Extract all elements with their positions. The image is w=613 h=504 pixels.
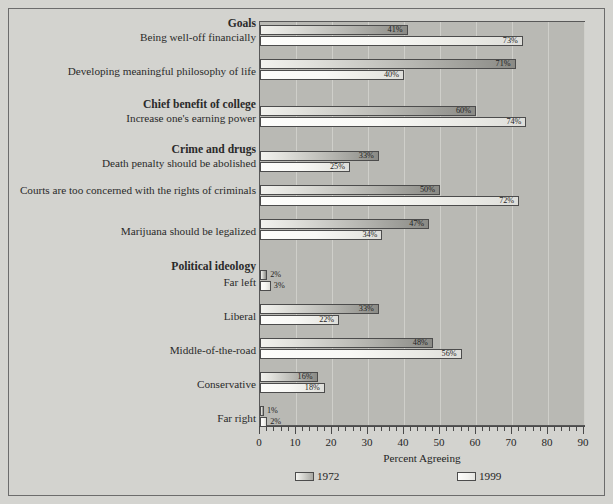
value-label-conservative-1999: 18% — [260, 383, 320, 393]
axis-tick-minor — [518, 427, 519, 431]
axis-tick-minor — [345, 427, 346, 431]
legend: 19721999 — [259, 470, 585, 486]
value-label-far-right-1972: 1% — [267, 406, 278, 416]
value-label-increase-earning-power-1999: 74% — [260, 117, 521, 127]
x-tick-label: 0 — [256, 436, 262, 448]
value-label-middle-of-the-road-1972: 48% — [260, 338, 428, 348]
axis-tick-minor — [576, 427, 577, 431]
x-tick-label: 90 — [578, 436, 589, 448]
axis-tick-minor — [525, 427, 526, 431]
bar-far-left-1972 — [260, 270, 267, 280]
category-label: Conservative — [197, 378, 256, 391]
gridline — [548, 22, 549, 425]
value-label-developing-philosophy-of-life-1999: 40% — [260, 70, 399, 80]
value-label-middle-of-the-road-1999: 56% — [260, 349, 457, 359]
category-label: Increase one's earning power — [126, 112, 256, 125]
plot-area: 41%73%71%40%60%74%33%25%50%72%47%34%2%3%… — [259, 21, 585, 426]
axis-tick-minor — [561, 427, 562, 431]
category-label: Far right — [217, 412, 256, 425]
axis-tick-minor — [381, 427, 382, 431]
axis-tick-minor — [410, 427, 411, 431]
category-label: Being well-off financially — [140, 31, 256, 44]
value-label-marijuana-legalized-1999: 34% — [260, 230, 377, 240]
category-label: Courts are too concerned with the rights… — [10, 184, 256, 197]
axis-tick-minor — [504, 427, 505, 431]
axis-tick-major — [439, 427, 440, 434]
category-labels: GoalsBeing well-off financiallyDevelopin… — [10, 18, 258, 428]
section-header: Chief benefit of college — [143, 99, 256, 112]
category-label: Death penalty should be abolished — [102, 157, 256, 170]
x-tick-label: 60 — [470, 436, 481, 448]
axis-tick-major — [331, 427, 332, 434]
axis-tick-minor — [533, 427, 534, 431]
axis-tick-minor — [540, 427, 541, 431]
bar-far-right-1972 — [260, 406, 264, 416]
value-label-death-penalty-abolished-1972: 33% — [260, 151, 374, 161]
chart-page: GoalsBeing well-off financiallyDevelopin… — [0, 0, 613, 504]
value-label-liberal-1999: 22% — [260, 315, 334, 325]
axis-tick-minor — [374, 427, 375, 431]
axis-tick-minor — [432, 427, 433, 431]
x-axis-tick-labels: 0102030405060708090 — [259, 436, 585, 450]
axis-tick-major — [547, 427, 548, 434]
axis-tick-minor — [360, 427, 361, 431]
axis-tick-major — [583, 427, 584, 434]
x-tick-label: 10 — [290, 436, 301, 448]
bar-far-left-1999 — [260, 281, 271, 291]
axis-tick-minor — [489, 427, 490, 431]
value-label-being-well-off-financially-1972: 41% — [260, 25, 403, 35]
axis-tick-major — [475, 427, 476, 434]
axis-tick-major — [403, 427, 404, 434]
axis-tick-major — [367, 427, 368, 434]
category-label: Developing meaningful philosophy of life — [68, 65, 256, 78]
value-label-developing-philosophy-of-life-1972: 71% — [260, 59, 511, 69]
gridline — [440, 22, 441, 425]
value-label-being-well-off-financially-1999: 73% — [260, 36, 518, 46]
x-tick-label: 40 — [398, 436, 409, 448]
axis-tick-minor — [482, 427, 483, 431]
value-label-increase-earning-power-1972: 60% — [260, 106, 471, 116]
axis-tick-minor — [425, 427, 426, 431]
axis-tick-minor — [446, 427, 447, 431]
axis-tick-minor — [497, 427, 498, 431]
x-tick-label: 50 — [434, 436, 445, 448]
x-tick-label: 70 — [506, 436, 517, 448]
value-label-liberal-1972: 33% — [260, 304, 374, 314]
section-header: Political ideology — [171, 261, 256, 274]
axis-tick-major — [295, 427, 296, 434]
x-axis-line — [259, 426, 585, 427]
axis-tick-major — [511, 427, 512, 434]
section-header: Crime and drugs — [172, 144, 256, 157]
axis-tick-minor — [396, 427, 397, 431]
x-tick-label: 80 — [542, 436, 553, 448]
axis-tick-minor — [453, 427, 454, 431]
legend-label: 1972 — [317, 470, 339, 482]
value-label-far-left-1972: 2% — [270, 270, 281, 280]
x-tick-label: 20 — [326, 436, 337, 448]
axis-tick-minor — [554, 427, 555, 431]
x-axis — [259, 426, 585, 435]
legend-label: 1999 — [479, 470, 501, 482]
axis-tick-minor — [266, 427, 267, 431]
axis-tick-minor — [389, 427, 390, 431]
axis-tick-minor — [281, 427, 282, 431]
axis-tick-minor — [324, 427, 325, 431]
category-label: Marijuana should be legalized — [121, 225, 256, 238]
category-label: Middle-of-the-road — [170, 344, 256, 357]
gridline — [584, 22, 585, 425]
axis-tick-minor — [317, 427, 318, 431]
axis-tick-minor — [273, 427, 274, 431]
axis-tick-minor — [569, 427, 570, 431]
axis-tick-minor — [338, 427, 339, 431]
section-header: Goals — [228, 18, 256, 31]
category-label: Far left — [223, 276, 256, 289]
x-tick-label: 30 — [362, 436, 373, 448]
axis-tick-minor — [288, 427, 289, 431]
legend-item-1972: 1972 — [295, 470, 339, 482]
category-label: Liberal — [224, 310, 256, 323]
gridline — [512, 22, 513, 425]
legend-swatch-1999 — [457, 472, 476, 481]
axis-tick-minor — [309, 427, 310, 431]
legend-item-1999: 1999 — [457, 470, 501, 482]
value-label-death-penalty-abolished-1999: 25% — [260, 162, 345, 172]
